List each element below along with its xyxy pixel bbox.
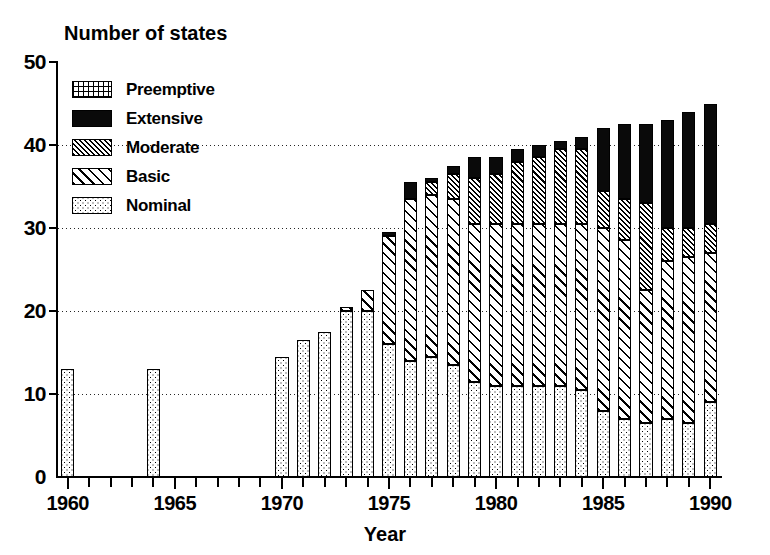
y-tick-label-30: 30 (24, 217, 46, 238)
bar-1985 (597, 128, 610, 477)
bar-1987 (639, 124, 652, 477)
bar-segment-1975-extensive (382, 232, 395, 236)
x-tick-mark-1966 (195, 478, 197, 487)
bar-segment-1981-extensive (511, 149, 524, 161)
legend-item-preemptive: Preemptive (72, 75, 215, 104)
bar-1988 (661, 120, 674, 477)
bar-segment-1977-basic (425, 195, 438, 357)
bar-segment-1990-basic (704, 253, 717, 402)
bar-segment-1978-basic (447, 199, 460, 365)
bar-segment-1986-extensive (618, 124, 631, 199)
bar-segment-1964-nominal (147, 369, 160, 477)
bar-segment-1989-extensive (682, 112, 695, 228)
bar-1974 (361, 290, 374, 477)
bar-segment-1974-nominal (361, 311, 374, 477)
bar-segment-1990-extensive (704, 104, 717, 224)
x-tick-mark-1963 (131, 478, 133, 487)
legend-swatch-nominal-icon (72, 197, 112, 214)
bar-segment-1985-extensive (597, 128, 610, 190)
chart-figure: Number of states 01020304050 19601965197… (0, 0, 770, 555)
bar-1977 (425, 178, 438, 477)
bar-segment-1980-basic (489, 224, 502, 386)
bar-segment-1983-basic (554, 224, 567, 386)
bar-segment-1981-basic (511, 224, 524, 386)
x-tick-mark-1960 (67, 478, 69, 489)
bar-1983 (554, 141, 567, 477)
bar-1981 (511, 149, 524, 477)
x-tick-mark-1964 (152, 478, 154, 487)
x-tick-mark-1983 (559, 478, 561, 487)
bar-segment-1985-basic (597, 228, 610, 411)
x-tick-mark-1974 (367, 478, 369, 487)
bar-1980 (489, 157, 502, 477)
bar-segment-1979-extensive (468, 157, 481, 178)
bar-segment-1977-extensive (425, 178, 438, 182)
x-tick-mark-1984 (581, 478, 583, 487)
bar-segment-1988-extensive (661, 120, 674, 228)
x-tick-mark-1961 (88, 478, 90, 487)
bar-segment-1975-basic (382, 236, 395, 344)
bar-1984 (575, 133, 588, 477)
bar-segment-1981-moderate (511, 162, 524, 224)
x-tick-mark-1965 (174, 478, 176, 489)
bar-segment-1986-basic (618, 240, 631, 418)
x-tick-label-1980: 1980 (475, 492, 518, 515)
legend-label: Extensive (126, 109, 203, 129)
bar-1960 (61, 369, 74, 477)
bar-segment-1975-nominal (382, 344, 395, 477)
bar-1990 (704, 104, 717, 478)
x-tick-mark-1971 (302, 478, 304, 487)
chart-legend: PreemptiveExtensiveModerateBasicNominal (72, 75, 215, 220)
bar-segment-1989-basic (682, 257, 695, 423)
bar-segment-1973-nominal (340, 311, 353, 477)
bar-1976 (404, 182, 417, 477)
bar-segment-1983-extensive (554, 141, 567, 149)
x-tick-label-1970: 1970 (261, 492, 304, 515)
bar-segment-1988-nominal (661, 419, 674, 477)
legend-item-nominal: Nominal (72, 191, 215, 220)
bar-1964 (147, 369, 160, 477)
bar-segment-1971-nominal (297, 340, 310, 477)
x-tick-mark-1987 (645, 478, 647, 487)
bar-segment-1984-basic (575, 224, 588, 390)
bar-segment-1978-moderate (447, 174, 460, 199)
legend-swatch-basic-icon (72, 168, 112, 185)
bar-segment-1987-nominal (639, 423, 652, 477)
bar-segment-1960-nominal (61, 369, 74, 477)
x-tick-mark-1978 (452, 478, 454, 487)
legend-label: Preemptive (126, 80, 215, 100)
legend-swatch-moderate-icon (72, 139, 112, 156)
bar-segment-1989-nominal (682, 423, 695, 477)
x-tick-mark-1989 (688, 478, 690, 487)
x-tick-label-1990: 1990 (689, 492, 732, 515)
legend-item-extensive: Extensive (72, 104, 215, 133)
bar-segment-1970-nominal (275, 357, 288, 477)
bar-segment-1978-nominal (447, 365, 460, 477)
bar-segment-1984-extensive (575, 137, 588, 149)
bar-segment-1980-moderate (489, 174, 502, 224)
bar-segment-1973-basic (340, 307, 353, 311)
x-tick-mark-1962 (110, 478, 112, 487)
bar-segment-1990-nominal (704, 402, 717, 477)
x-tick-mark-1988 (666, 478, 668, 487)
bar-segment-1982-moderate (532, 157, 545, 223)
y-axis-title: Number of states (64, 22, 227, 45)
x-tick-mark-1969 (259, 478, 261, 487)
bar-segment-1981-nominal (511, 386, 524, 477)
legend-item-moderate: Moderate (72, 133, 215, 162)
bar-segment-1980-nominal (489, 386, 502, 477)
bar-segment-1987-basic (639, 290, 652, 423)
x-tick-mark-1990 (709, 478, 711, 489)
bar-segment-1979-moderate (468, 178, 481, 224)
x-tick-mark-1968 (238, 478, 240, 487)
x-tick-mark-1967 (217, 478, 219, 487)
bar-segment-1983-nominal (554, 386, 567, 477)
bar-1975 (382, 232, 395, 477)
bar-segment-1978-extensive (447, 166, 460, 174)
x-tick-mark-1985 (602, 478, 604, 489)
bar-segment-1984-nominal (575, 390, 588, 477)
x-tick-label-1985: 1985 (582, 492, 625, 515)
bar-1970 (275, 357, 288, 477)
bar-segment-1977-moderate (425, 182, 438, 194)
bar-segment-1982-extensive (532, 145, 545, 157)
